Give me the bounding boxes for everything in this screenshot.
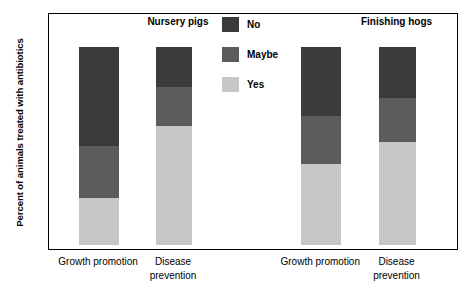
legend-swatch-no (222, 17, 239, 32)
legend-label: No (247, 19, 260, 30)
bar-segment-no (79, 47, 119, 146)
x-axis-category-label: Growth promotion (280, 255, 359, 269)
x-axis-category-label: Disease prevention (150, 255, 197, 282)
legend-swatch-yes (222, 77, 239, 92)
legend-label: Yes (247, 79, 264, 90)
stacked-bar (156, 47, 192, 245)
bar-segment-yes (79, 198, 119, 245)
legend-label: Maybe (247, 49, 278, 60)
legend-item-no: No (222, 17, 260, 32)
legend-swatch-maybe (222, 47, 239, 62)
bar-segment-maybe (79, 146, 119, 198)
group-title: Nursery pigs (147, 16, 208, 27)
x-axis-category-label: Disease prevention (373, 255, 420, 282)
bar-segment-no (301, 47, 341, 116)
stacked-bar (79, 47, 119, 245)
stacked-bar (301, 47, 341, 245)
legend-item-maybe: Maybe (222, 47, 278, 62)
x-axis-category-label: Growth promotion (58, 255, 137, 269)
bar-segment-no (379, 47, 416, 98)
bar-segment-maybe (156, 87, 192, 127)
group-title: Finishing hogs (361, 16, 432, 27)
stacked-bar (379, 47, 416, 245)
bar-segment-maybe (301, 116, 341, 164)
bar-segment-yes (301, 164, 341, 245)
chart-figure: Percent of animals treated with antibiot… (0, 0, 470, 292)
bar-segment-maybe (379, 98, 416, 142)
bar-segment-yes (379, 142, 416, 245)
bar-segment-yes (156, 126, 192, 245)
legend-item-yes: Yes (222, 77, 264, 92)
y-axis-title: Percent of animals treated with antibiot… (14, 8, 25, 258)
bar-segment-no (156, 47, 192, 87)
